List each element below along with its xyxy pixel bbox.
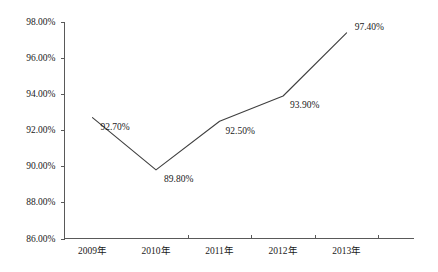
y-tick-label: 94.00% [26, 89, 55, 99]
chart-background [0, 0, 438, 272]
x-tick-label: 2009年 [78, 245, 107, 256]
y-tick-label: 92.00% [26, 125, 55, 135]
y-tick-label: 86.00% [26, 234, 55, 244]
line-chart: 98.00%96.00%94.00%92.00%90.00%88.00%86.0… [0, 0, 438, 272]
x-tick-label: 2010年 [142, 245, 171, 256]
data-point-label: 93.90% [290, 100, 319, 110]
data-point-label: 89.80% [164, 174, 193, 184]
y-tick-label: 96.00% [26, 53, 55, 63]
data-point-label: 92.50% [226, 126, 255, 136]
data-point-label: 97.40% [355, 22, 384, 32]
data-point-label: 92.70% [100, 122, 129, 132]
chart-canvas: 98.00%96.00%94.00%92.00%90.00%88.00%86.0… [0, 0, 438, 272]
x-tick-label: 2012年 [269, 245, 298, 256]
y-tick-label: 90.00% [26, 161, 55, 171]
y-tick-label: 88.00% [26, 197, 55, 207]
x-tick-label: 2011年 [205, 245, 234, 256]
x-tick-label: 2013年 [332, 245, 361, 256]
y-tick-label: 98.00% [26, 17, 55, 27]
